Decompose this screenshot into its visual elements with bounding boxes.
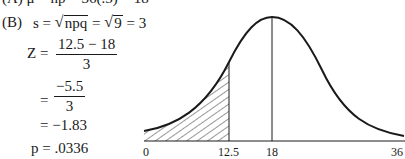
tick-18: 18: [266, 145, 278, 159]
normal-curve-chart: [0, 0, 405, 159]
tick-0: 0: [143, 145, 149, 159]
shaded-tail: [144, 40, 230, 142]
tick-36: 36: [391, 145, 403, 159]
tick-12-5: 12.5: [218, 145, 239, 159]
